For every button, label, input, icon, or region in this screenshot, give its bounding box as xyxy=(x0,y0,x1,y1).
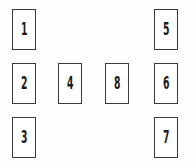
card-4[interactable]: 4 xyxy=(58,63,82,104)
card-label: 8 xyxy=(114,75,120,92)
card-label: 5 xyxy=(163,21,169,38)
card-2[interactable]: 2 xyxy=(12,63,36,104)
card-label: 3 xyxy=(21,129,27,146)
card-5[interactable]: 5 xyxy=(154,9,178,50)
card-8[interactable]: 8 xyxy=(105,63,129,104)
card-6[interactable]: 6 xyxy=(154,63,178,104)
card-1[interactable]: 1 xyxy=(12,9,36,50)
card-label: 1 xyxy=(21,21,27,38)
card-7[interactable]: 7 xyxy=(154,117,178,158)
card-label: 6 xyxy=(163,75,169,92)
card-label: 7 xyxy=(163,129,169,146)
card-layout-canvas: 1 2 3 4 8 5 6 7 xyxy=(0,0,194,167)
card-label: 2 xyxy=(21,75,27,92)
card-3[interactable]: 3 xyxy=(12,117,36,158)
card-label: 4 xyxy=(67,75,73,92)
